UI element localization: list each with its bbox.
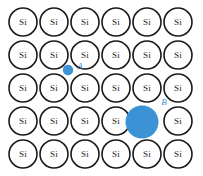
atom-label: Si [174,116,182,126]
lattice-atom: Si [164,8,192,36]
atom-label: Si [19,116,27,126]
atom-label: Si [143,149,151,159]
dopant-circle-b [126,106,159,139]
atom-label: Si [112,116,120,126]
atom-label: Si [81,83,89,93]
atom-label: Si [50,116,58,126]
lattice-atom: Si [40,8,68,36]
atom-label: Si [19,50,27,60]
lattice-atom: Si [9,140,37,168]
lattice-atom: Si [9,41,37,69]
atom-label: Si [112,149,120,159]
atom-label: Si [174,149,182,159]
atom-label: Si [81,50,89,60]
lattice-atom: Si [40,140,68,168]
lattice-atom: Si [102,74,130,102]
lattice-atom: Si [71,41,99,69]
lattice-atom: Si [9,74,37,102]
lattice-atom: Si [133,8,161,36]
dopant-b: B [126,97,168,138]
dopant-circle-a [63,65,73,75]
lattice-atom: Si [164,107,192,135]
lattice-atom: Si [71,8,99,36]
atom-label: Si [112,50,120,60]
lattice-atom: Si [40,41,68,69]
atom-label: Si [143,50,151,60]
atom-label: Si [143,17,151,27]
lattice-atom: Si [102,8,130,36]
atom-label: Si [81,17,89,27]
atom-label: Si [112,17,120,27]
atom-label: Si [50,83,58,93]
lattice-atom: Si [133,74,161,102]
atom-label: Si [174,17,182,27]
atom-label: Si [174,83,182,93]
atom-label: Si [50,50,58,60]
lattice-atom: Si [71,107,99,135]
atom-label: Si [19,83,27,93]
lattice-canvas: SiSiSiSiSiSiSiSiSiSiSiSiSiSiSiSiSiSiSiSi… [0,0,203,176]
atom-label: Si [19,149,27,159]
lattice-atom: Si [102,140,130,168]
lattice-atom: Si [71,74,99,102]
lattice-atom: Si [133,140,161,168]
lattice-atom: Si [9,107,37,135]
silicon-lattice-diagram: SiSiSiSiSiSiSiSiSiSiSiSiSiSiSiSiSiSiSiSi… [0,0,203,176]
lattice-atom: Si [40,107,68,135]
atom-label: Si [174,50,182,60]
lattice-atom: Si [164,140,192,168]
dopant-label-a: A [76,61,83,71]
atom-label: Si [81,116,89,126]
lattice-atom: Si [9,8,37,36]
atom-label: Si [81,149,89,159]
lattice-atom: Si [164,74,192,102]
atom-label: Si [143,83,151,93]
lattice-atom: Si [71,140,99,168]
atom-label: Si [19,17,27,27]
lattice-atom: Si [102,41,130,69]
lattice-atom: Si [133,41,161,69]
lattice-atom: Si [164,41,192,69]
dopant-label-b: B [161,97,167,107]
atom-label: Si [50,17,58,27]
atom-label: Si [50,149,58,159]
lattice-atom: Si [40,74,68,102]
atom-label: Si [112,83,120,93]
